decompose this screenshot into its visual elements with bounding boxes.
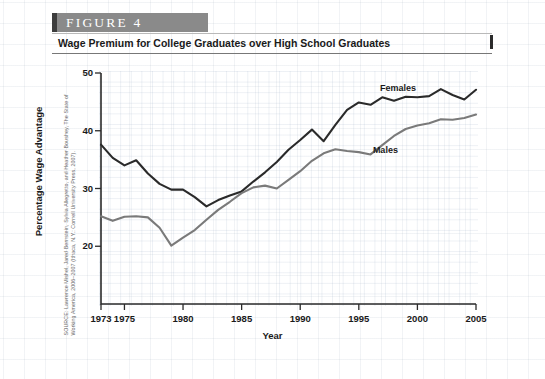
- series-line-females: [101, 89, 476, 206]
- axis-lines: [101, 73, 476, 304]
- chart-plot-area: 20304050 1973197519801985199019952000200…: [101, 73, 476, 304]
- y-axis-title: Percentage Wage Advantage: [33, 72, 44, 272]
- y-tick-label: 40: [65, 125, 93, 136]
- x-tick-label: 2000: [397, 313, 437, 324]
- x-tick-label: 1990: [280, 313, 320, 324]
- series-label-females: Females: [380, 83, 416, 93]
- y-tick-label: 30: [65, 183, 93, 194]
- x-tick-label: 1985: [222, 313, 262, 324]
- x-tick-label: 1975: [104, 313, 144, 324]
- x-axis-ticks: [101, 304, 476, 310]
- x-tick-label: 1980: [163, 313, 203, 324]
- x-axis-title: Year: [0, 330, 545, 341]
- y-tick-label: 20: [65, 240, 93, 251]
- x-tick-label: 2005: [456, 313, 496, 324]
- figure-page: FIGURE 4 Wage Premium for College Gradua…: [0, 0, 545, 379]
- y-axis-ticks: [95, 73, 101, 246]
- chart-series: [101, 89, 476, 246]
- series-label-males: Males: [373, 145, 398, 155]
- series-line-males: [101, 115, 476, 246]
- chart-axes: [95, 73, 476, 310]
- y-tick-label: 50: [65, 67, 93, 78]
- x-tick-label: 1995: [339, 313, 379, 324]
